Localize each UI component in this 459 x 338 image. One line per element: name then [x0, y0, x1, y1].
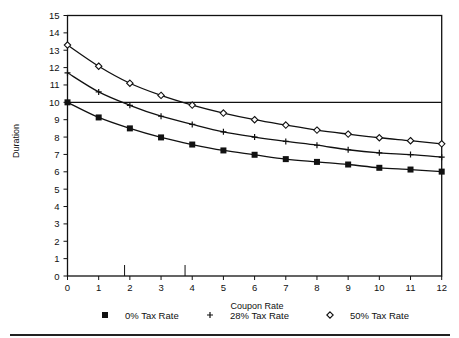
- square-marker-icon: [439, 169, 445, 175]
- diamond-marker-icon: [314, 127, 320, 133]
- plot-frame: [68, 16, 442, 277]
- x-tick-label: 5: [221, 282, 226, 293]
- plus-marker-icon: [408, 152, 414, 158]
- square-marker-icon: [189, 142, 195, 148]
- y-tick-label: 12: [49, 62, 60, 73]
- series-line: [68, 73, 442, 157]
- diamond-icon: [327, 312, 333, 318]
- diamond-marker-icon: [127, 80, 133, 86]
- y-axis-title: Duration: [11, 124, 21, 158]
- y-tick-label: 0: [54, 271, 59, 282]
- x-axis-markers: [125, 265, 185, 276]
- plus-marker-icon: [65, 70, 71, 76]
- y-tick-label: 11: [50, 79, 60, 90]
- legend-item: 28% Tax Rate: [207, 310, 289, 321]
- diamond-marker-icon: [95, 63, 101, 69]
- diamond-marker-icon: [158, 92, 164, 98]
- plus-marker-icon: [252, 134, 258, 140]
- square-marker-icon: [345, 162, 351, 168]
- series-28-tax-rate: [65, 70, 445, 160]
- y-tick-label: 14: [49, 27, 60, 38]
- x-axis: 0123456789101112: [65, 276, 447, 293]
- plus-marker-icon: [314, 142, 320, 148]
- diamond-marker-icon: [407, 138, 413, 144]
- diamond-marker-icon: [251, 117, 257, 123]
- y-tick-label: 9: [54, 114, 59, 125]
- x-tick-label: 7: [283, 282, 288, 293]
- y-tick-label: 13: [49, 45, 60, 56]
- square-marker-icon: [158, 134, 164, 140]
- plus-marker-icon: [189, 121, 195, 127]
- legend-item: 0% Tax Rate: [102, 310, 179, 321]
- diamond-marker-icon: [345, 131, 351, 137]
- x-tick-label: 12: [436, 282, 447, 293]
- plus-marker-icon: [127, 102, 133, 108]
- y-tick-label: 1: [54, 253, 59, 264]
- square-marker-icon: [376, 165, 382, 171]
- square-marker-icon: [96, 114, 102, 120]
- square-marker-icon: [220, 147, 226, 153]
- x-tick-label: 6: [252, 282, 257, 293]
- series-50-tax-rate: [64, 42, 445, 147]
- square-marker-icon: [283, 156, 289, 162]
- plot-border: [68, 16, 442, 277]
- diamond-marker-icon: [376, 135, 382, 141]
- legend: 0% Tax Rate28% Tax Rate50% Tax Rate: [102, 310, 409, 321]
- x-tick-label: 4: [190, 282, 195, 293]
- y-tick-label: 7: [54, 149, 59, 160]
- x-tick-label: 2: [127, 282, 132, 293]
- diamond-marker-icon: [439, 141, 445, 147]
- y-tick-label: 4: [54, 201, 59, 212]
- plus-marker-icon: [96, 89, 102, 95]
- y-tick-label: 15: [49, 10, 60, 21]
- x-tick-label: 3: [158, 282, 163, 293]
- y-tick-label: 5: [54, 184, 59, 195]
- plus-marker-icon: [376, 150, 382, 156]
- diamond-marker-icon: [283, 122, 289, 128]
- legend-label: 28% Tax Rate: [230, 310, 289, 321]
- series-layer: [64, 42, 445, 175]
- x-tick-label: 11: [406, 282, 416, 293]
- square-marker-icon: [314, 159, 320, 165]
- x-tick-label: 8: [314, 282, 319, 293]
- legend-label: 0% Tax Rate: [125, 310, 179, 321]
- series-line: [68, 45, 442, 144]
- plus-marker-icon: [345, 147, 351, 153]
- plus-marker-icon: [283, 138, 289, 144]
- y-tick-label: 3: [54, 218, 59, 229]
- legend-label: 50% Tax Rate: [350, 310, 409, 321]
- square-marker-icon: [408, 167, 414, 173]
- square-marker-icon: [252, 152, 258, 158]
- legend-item: 50% Tax Rate: [327, 310, 409, 321]
- y-tick-label: 8: [54, 132, 59, 143]
- y-tick-label: 2: [54, 236, 59, 247]
- diamond-marker-icon: [220, 110, 226, 116]
- y-tick-label: 6: [54, 166, 59, 177]
- plus-marker-icon: [220, 129, 226, 135]
- plus-marker-icon: [158, 113, 164, 119]
- square-marker-icon: [65, 99, 71, 105]
- plus-icon: [207, 312, 213, 318]
- plus-marker-icon: [439, 154, 445, 160]
- x-tick-label: 1: [96, 282, 101, 293]
- bottom-rule: [10, 334, 450, 336]
- y-tick-label: 10: [49, 97, 60, 108]
- duration-chart: 0123456789101112131415 0123456789101112 …: [0, 0, 459, 338]
- y-axis: 0123456789101112131415: [49, 10, 68, 282]
- x-tick-label: 10: [374, 282, 385, 293]
- x-tick-label: 0: [65, 282, 70, 293]
- x-tick-label: 9: [346, 282, 351, 293]
- square-icon: [102, 312, 108, 318]
- square-marker-icon: [127, 125, 133, 131]
